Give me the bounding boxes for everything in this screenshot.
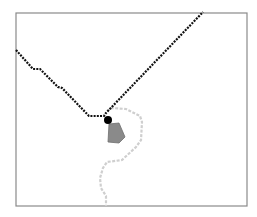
primary-route-line — [16, 12, 203, 116]
map-canvas[interactable] — [0, 0, 257, 217]
map-frame — [16, 13, 247, 206]
location-marker-icon[interactable] — [104, 116, 112, 124]
highlighted-area[interactable] — [108, 123, 125, 143]
